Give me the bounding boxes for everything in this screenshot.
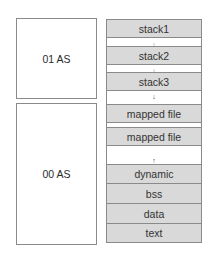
segment-label: data [144, 208, 164, 220]
segment-mapped-file-2: mapped file [107, 127, 201, 146]
segment-stack2: stack2 [107, 46, 201, 65]
segment-label: dynamic [134, 168, 173, 180]
address-space-01-label: 01 AS [42, 53, 70, 65]
segment-bss: bss [107, 184, 201, 204]
segment-dynamic: dynamic [107, 164, 201, 184]
segment-label: bss [146, 188, 162, 200]
segment-label: mapped file [127, 108, 181, 120]
segment-text: text [107, 224, 201, 242]
arrow-down-icon: ↓ [107, 93, 201, 100]
address-space-00: 00 AS [16, 103, 97, 245]
segment-stack3: stack3 [107, 72, 201, 91]
segment-label: stack1 [139, 23, 169, 35]
segment-label: mapped file [127, 131, 181, 143]
segment-stack1: stack1 [107, 20, 201, 38]
address-space-00-label: 00 AS [42, 168, 70, 180]
segment-data: data [107, 204, 201, 224]
segment-mapped-file-1: mapped file [107, 104, 201, 123]
segment-label: stack2 [139, 50, 169, 62]
segment-label: stack3 [139, 76, 169, 88]
segment-label: text [146, 227, 163, 239]
address-space-01: 01 AS [16, 18, 97, 99]
arrow-up-icon: ↑ [107, 157, 201, 164]
memory-layout-column: stack1 ↓ stack2 ↓ stack3 ↓ mapped file m… [106, 19, 202, 243]
